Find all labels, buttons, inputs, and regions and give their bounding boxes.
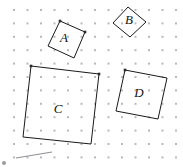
grid-dot bbox=[67, 156, 69, 158]
dot-grid bbox=[13, 9, 177, 158]
shape-label-c: C bbox=[54, 101, 63, 116]
grid-dot bbox=[162, 63, 164, 65]
grid-dot bbox=[108, 156, 110, 158]
grid-dot bbox=[162, 49, 164, 51]
grid-dot bbox=[121, 89, 123, 91]
grid-dot bbox=[175, 76, 177, 78]
grid-dot bbox=[148, 130, 150, 132]
grid-dot bbox=[81, 89, 83, 91]
grid-dot bbox=[121, 143, 123, 145]
grid-dot bbox=[135, 156, 137, 158]
grid-dot bbox=[13, 63, 15, 65]
grid-dot bbox=[13, 143, 15, 145]
grid-dot bbox=[67, 116, 69, 118]
grid-dot bbox=[94, 156, 96, 158]
grid-dot bbox=[108, 130, 110, 132]
grid-dot bbox=[94, 76, 96, 78]
grid-dot bbox=[108, 22, 110, 24]
grid-dot bbox=[40, 116, 42, 118]
grid-dot bbox=[40, 89, 42, 91]
grid-dot bbox=[121, 9, 123, 11]
corner-mark bbox=[84, 31, 87, 34]
grid-dot bbox=[13, 130, 15, 132]
grid-dot bbox=[27, 9, 29, 11]
grid-dot bbox=[81, 63, 83, 65]
grid-dot bbox=[162, 143, 164, 145]
grid-dot bbox=[81, 76, 83, 78]
corner-mark bbox=[124, 69, 127, 72]
grid-dot bbox=[148, 9, 150, 11]
grid-dot bbox=[148, 49, 150, 51]
grid-dot bbox=[81, 130, 83, 132]
grid-dot bbox=[135, 76, 137, 78]
grid-dot bbox=[162, 156, 164, 158]
grid-dot bbox=[175, 9, 177, 11]
grid-dot bbox=[40, 22, 42, 24]
grid-dot bbox=[108, 76, 110, 78]
grid-dot bbox=[175, 103, 177, 105]
shape-label-d: D bbox=[133, 85, 144, 100]
grid-dot bbox=[162, 89, 164, 91]
grid-dot bbox=[94, 9, 96, 11]
grid-dot bbox=[40, 76, 42, 78]
grid-dot bbox=[148, 103, 150, 105]
grid-dot bbox=[40, 9, 42, 11]
grid-dot bbox=[148, 143, 150, 145]
grid-dot bbox=[81, 116, 83, 118]
grid-dot bbox=[40, 49, 42, 51]
grid-dot bbox=[13, 103, 15, 105]
grid-dot bbox=[121, 76, 123, 78]
grid-dot bbox=[94, 36, 96, 38]
grid-dot bbox=[108, 49, 110, 51]
grid-dot bbox=[27, 22, 29, 24]
grid-dot bbox=[54, 63, 56, 65]
shape-d: D bbox=[116, 69, 167, 119]
grid-dot bbox=[81, 22, 83, 24]
grid-dot bbox=[135, 143, 137, 145]
grid-dot bbox=[94, 130, 96, 132]
grid-dot bbox=[162, 116, 164, 118]
grid-dot bbox=[13, 116, 15, 118]
figure-svg: ABCD bbox=[0, 0, 183, 167]
grid-dot bbox=[40, 36, 42, 38]
grid-dot bbox=[121, 63, 123, 65]
grid-dot bbox=[94, 22, 96, 24]
grid-dot bbox=[108, 143, 110, 145]
grid-dot bbox=[108, 116, 110, 118]
grid-dot bbox=[148, 89, 150, 91]
grid-dot bbox=[175, 130, 177, 132]
grid-dot bbox=[121, 156, 123, 158]
grid-dot bbox=[108, 36, 110, 38]
grid-dot bbox=[108, 63, 110, 65]
grid-dot bbox=[13, 156, 15, 158]
grid-dot bbox=[54, 89, 56, 91]
grid-dot bbox=[135, 63, 137, 65]
grid-dot bbox=[175, 49, 177, 51]
grid-dot bbox=[135, 36, 137, 38]
grid-dot bbox=[13, 89, 15, 91]
grid-dot bbox=[67, 103, 69, 105]
shapes-layer: ABCD bbox=[23, 7, 167, 144]
corner-mark bbox=[98, 73, 101, 76]
grid-dot bbox=[148, 63, 150, 65]
stray-line bbox=[16, 152, 52, 158]
grid-dot bbox=[13, 22, 15, 24]
geometry-figure-canvas: ABCD bbox=[0, 0, 183, 167]
grid-dot bbox=[27, 63, 29, 65]
grid-dot bbox=[67, 143, 69, 145]
grid-dot bbox=[67, 76, 69, 78]
grid-dot bbox=[81, 156, 83, 158]
grid-dot bbox=[13, 9, 15, 11]
grid-dot bbox=[40, 143, 42, 145]
grid-dot bbox=[67, 89, 69, 91]
grid-dot bbox=[135, 22, 137, 24]
corner-mark bbox=[30, 65, 33, 68]
grid-dot bbox=[135, 116, 137, 118]
grid-dot bbox=[121, 36, 123, 38]
grid-dot bbox=[148, 156, 150, 158]
grid-dot bbox=[27, 49, 29, 51]
grid-dot bbox=[121, 49, 123, 51]
grid-dot bbox=[40, 130, 42, 132]
grid-dot bbox=[94, 89, 96, 91]
grid-dot bbox=[175, 36, 177, 38]
